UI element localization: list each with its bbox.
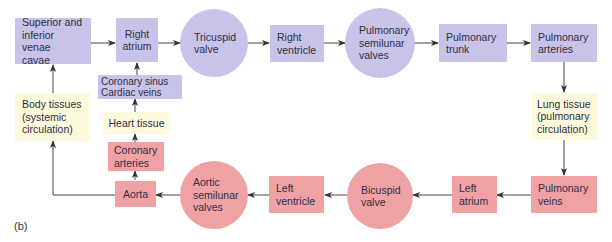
node-pulmonary-trunk: Pulmonary trunk — [439, 24, 507, 62]
node-aorta: Aorta — [115, 181, 156, 207]
node-label: Left atrium — [459, 182, 488, 207]
node-pulmonary-arteries: Pulmonary arteries — [531, 24, 597, 62]
node-coronary-sinus: Coronary sinus Cardiac veins — [98, 75, 182, 99]
node-label: Lung tissue (pulmonary circulation) — [537, 98, 591, 136]
node-left-ventricle: Left ventricle — [269, 176, 324, 213]
node-label: Superior and inferior venae cavae — [22, 16, 84, 66]
node-aortic-semilunar-valves: Aortic semilunar valves — [180, 161, 248, 229]
node-right-ventricle: Right ventricle — [270, 25, 324, 62]
node-pulmonary-veins: Pulmonary veins — [531, 176, 597, 213]
node-label: Tricuspid valve — [194, 31, 236, 56]
node-pulmonary-semilunar-valves: Pulmonary semilunar valves — [345, 8, 415, 78]
node-label: Left ventricle — [276, 182, 315, 207]
node-label: Right atrium — [122, 28, 151, 53]
node-venae-cavae: Superior and inferior venae cavae — [15, 18, 91, 64]
node-label: Coronary arteries — [114, 144, 157, 169]
node-label: Pulmonary trunk — [446, 31, 496, 56]
node-tricuspid-valve: Tricuspid valve — [180, 9, 248, 77]
node-body-tissues: Body tissues (systemic circulation) — [15, 93, 90, 141]
node-label: Right ventricle — [277, 31, 316, 56]
node-right-atrium: Right atrium — [116, 18, 158, 62]
node-left-atrium: Left atrium — [452, 176, 497, 213]
node-label: Body tissues (systemic circulation) — [22, 98, 82, 136]
node-lung-tissue: Lung tissue (pulmonary circulation) — [532, 93, 598, 140]
node-label: Pulmonary arteries — [538, 31, 588, 56]
node-bicuspid-valve: Bicuspid valve — [347, 163, 413, 229]
figure-panel-label: (b) — [14, 220, 27, 232]
node-label: Aorta — [123, 188, 148, 201]
node-label: Pulmonary veins — [538, 182, 588, 207]
node-label: Aortic semilunar valves — [193, 176, 239, 214]
node-label: Bicuspid valve — [361, 184, 401, 209]
node-label: Pulmonary semilunar valves — [359, 24, 409, 62]
node-label: Heart tissue — [108, 117, 164, 130]
node-label: Coronary sinus Cardiac veins — [101, 76, 168, 99]
node-heart-tissue: Heart tissue — [103, 112, 170, 134]
node-coronary-arteries: Coronary arteries — [108, 142, 164, 171]
